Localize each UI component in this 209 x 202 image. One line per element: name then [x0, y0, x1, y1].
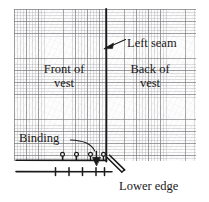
label-back-of-vest-line2: vest: [121, 76, 179, 90]
pin-marker: [102, 152, 106, 160]
label-back-of-vest-line1: Back of: [121, 62, 179, 76]
pin-marker: [61, 152, 65, 160]
label-back-of-vest: Back of vest: [121, 62, 179, 90]
label-front-of-vest: Front of vest: [33, 62, 95, 90]
label-front-of-vest-line2: vest: [33, 76, 95, 90]
down-arrow-marker: [93, 152, 101, 166]
pin-marker: [89, 152, 93, 160]
label-lower-edge: Lower edge: [119, 179, 178, 193]
left-seam-leader-line: [112, 40, 126, 46]
diagram-ink-layer: [0, 0, 209, 202]
label-left-seam: Left seam: [127, 36, 177, 50]
pin-marker: [75, 152, 79, 160]
binding-leader-line: [71, 140, 95, 151]
label-binding: Binding: [19, 131, 59, 145]
binding-fold-diagonal: [107, 155, 125, 172]
label-front-of-vest-line1: Front of: [33, 62, 95, 76]
diagram-canvas: Left seam Front of vest Back of vest Bin…: [0, 0, 209, 202]
